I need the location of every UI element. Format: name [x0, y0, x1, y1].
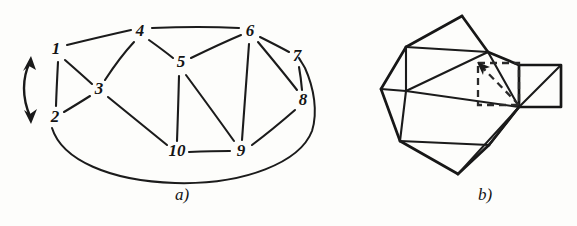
edge-7-8	[299, 67, 302, 90]
edge-bottom-to-right-lower	[458, 107, 519, 174]
panel-b-group: b)	[381, 16, 561, 204]
edge-lower-left-to-bottom	[400, 141, 458, 174]
edge-4-6	[152, 27, 239, 28]
edge-top-to-upper-mid	[462, 16, 488, 52]
node-label-10: 10	[169, 141, 187, 160]
node-label-1: 1	[52, 39, 61, 58]
edge-2-7-outer-curve	[52, 58, 315, 183]
panel-a-caption: a)	[175, 185, 190, 204]
edge-4-5	[149, 40, 173, 58]
solid-square-diagonal	[519, 65, 561, 107]
node-label-3: 3	[94, 79, 104, 98]
figure-root: 1 2 3 4 5 6 7 8 9 10 a)	[0, 0, 577, 226]
double-headed-curved-arrow	[23, 56, 37, 124]
arrow-head-up	[23, 56, 36, 71]
panel-a-group: 1 2 3 4 5 6 7 8 9 10 a)	[23, 21, 315, 204]
edge-left-to-inner-left	[381, 89, 406, 91]
edge-lower-left-to-lower-mid	[400, 141, 489, 145]
node-label-8: 8	[299, 90, 308, 109]
edge-upper-left-to-upper-mid	[406, 47, 488, 52]
panel-b-edges	[381, 16, 519, 174]
node-label-5: 5	[177, 52, 186, 71]
edge-upper-left-to-left	[381, 47, 406, 89]
node-label-2: 2	[50, 107, 60, 126]
edge-3-4	[105, 42, 134, 80]
edge-5-9	[186, 75, 234, 141]
figure-svg: 1 2 3 4 5 6 7 8 9 10 a)	[0, 0, 577, 226]
edge-left-to-lower-left	[381, 89, 400, 141]
edge-1-3	[65, 60, 92, 84]
node-label-9: 9	[237, 141, 246, 160]
edge-5-6	[191, 35, 241, 58]
edge-6-8	[258, 42, 297, 90]
panel-b-caption: b)	[478, 185, 493, 204]
arrow-head-down	[24, 109, 37, 124]
edge-3-10	[108, 97, 167, 145]
right-solid-square	[519, 65, 561, 107]
edge-inner-left-to-upper-mid	[406, 52, 488, 91]
node-label-4: 4	[135, 21, 145, 40]
edge-9-10	[189, 151, 230, 152]
edge-1-4	[67, 30, 131, 45]
arrow-shaft	[24, 62, 30, 116]
edge-1-2	[56, 62, 58, 106]
edge-5-10	[177, 76, 179, 141]
edge-2-3	[64, 96, 90, 112]
edge-top-to-upper-left	[406, 16, 462, 47]
edge-inner-left-to-lower-left	[400, 91, 406, 141]
edge-8-9	[252, 110, 295, 145]
edge-6-9	[242, 44, 249, 140]
node-label-6: 6	[246, 21, 255, 40]
